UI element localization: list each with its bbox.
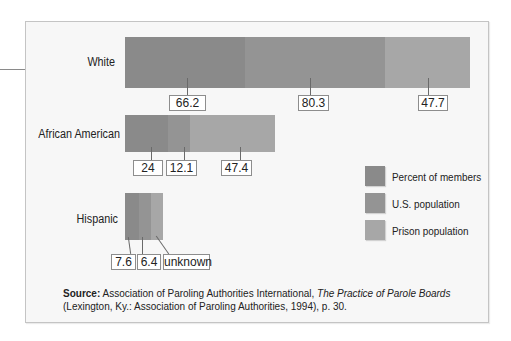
data-label-aa-members: 24 xyxy=(133,160,163,176)
callout-pointer xyxy=(151,147,152,161)
callout-pointer xyxy=(184,147,185,161)
bar-hispanic xyxy=(125,193,163,240)
callout-pointer xyxy=(240,147,241,161)
legend-label-prison: Prison population xyxy=(392,225,469,237)
bar-white-members xyxy=(125,37,245,88)
legend-label-us: U.S. population xyxy=(392,198,460,210)
bar-aa-prison xyxy=(190,115,275,152)
bar-white xyxy=(125,37,470,88)
bar-hispanic-prison xyxy=(151,193,163,240)
data-label-hispanic-us: 6.4 xyxy=(137,254,161,270)
bar-white-us xyxy=(245,37,385,88)
row-label-white: White xyxy=(48,55,116,69)
leader-line xyxy=(0,69,26,70)
row-label-african-american: African American xyxy=(30,127,120,141)
data-label-white-us: 80.3 xyxy=(298,95,329,111)
callout-pointer xyxy=(428,78,429,96)
data-label-hispanic-members: 7.6 xyxy=(111,254,136,270)
data-label-white-prison: 47.7 xyxy=(418,95,448,111)
source-label: Source: xyxy=(63,288,100,299)
legend-swatch-prison xyxy=(365,220,385,240)
bar-african-american xyxy=(125,115,275,152)
data-label-white-members: 66.2 xyxy=(169,95,206,111)
data-label-aa-prison: 47.4 xyxy=(221,160,252,176)
source-text-before: Association of Paroling Authorities Inte… xyxy=(100,288,317,299)
row-label-hispanic: Hispanic xyxy=(48,212,118,226)
bar-aa-members xyxy=(125,115,168,152)
bar-hispanic-members xyxy=(125,193,139,240)
legend-swatch-us xyxy=(365,193,385,213)
data-label-hispanic-prison: unknown xyxy=(163,254,210,270)
data-label-aa-us: 12.1 xyxy=(166,160,197,176)
legend-label-members: Percent of members xyxy=(392,171,481,183)
callout-pointer xyxy=(310,78,311,96)
source-title: The Practice of Parole Boards xyxy=(317,288,450,299)
source-note: Source: Association of Paroling Authorit… xyxy=(63,287,473,313)
callout-pointer xyxy=(142,237,143,254)
bar-aa-us xyxy=(168,115,190,152)
legend-swatch-members xyxy=(365,166,385,186)
bar-hispanic-us xyxy=(139,193,151,240)
callout-pointer xyxy=(187,78,188,96)
source-text-after: (Lexington, Ky.: Association of Paroling… xyxy=(63,301,347,312)
